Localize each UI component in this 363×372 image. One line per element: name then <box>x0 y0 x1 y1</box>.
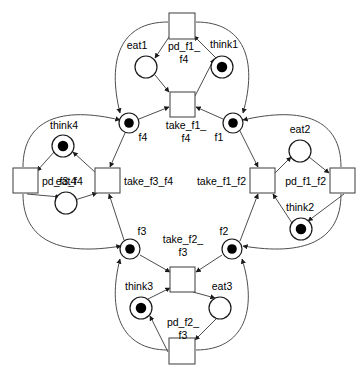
transition-label-take_f1_f2: take_f1_f2 <box>197 175 246 187</box>
arc-f1-to-takef1f2 <box>240 131 258 167</box>
transition-label2-take_f2_f3: f3 <box>179 246 188 258</box>
arc-f4-to-takef3f4 <box>110 133 125 167</box>
arc-f2-to-takef1f2 <box>240 194 258 241</box>
labels-layer: pd_f1_f4take_f1_f4pd_f1_f2take_f1_f2pd_f… <box>42 38 326 341</box>
token-f3 <box>125 244 135 254</box>
arc-takef3f4-to-think4 <box>73 152 96 173</box>
transition-label2-pd_f1_f4: f4 <box>180 53 189 65</box>
arc-f3-to-takef3f4 <box>109 194 124 240</box>
arc-pdf3f4-to-eat4 <box>27 194 60 197</box>
place-label-f3: f3 <box>138 225 147 237</box>
token-think1 <box>217 62 228 73</box>
token-f1 <box>228 118 238 128</box>
arc-f3-to-takef2f3 <box>140 255 170 272</box>
transition-label-pd_f2_f3: pd_f2_ <box>167 316 199 328</box>
arc-takef2f3-to-eat3 <box>193 292 215 298</box>
transition-label2-pd_f2_f3: f3 <box>179 329 188 341</box>
transition-pd_f2_f3[interactable] <box>169 338 195 364</box>
transition-label2-take_f1_f4: f4 <box>182 132 191 144</box>
transition-take_f2_f3[interactable] <box>170 267 195 292</box>
place-label-eat2: eat2 <box>290 123 311 135</box>
arcs-layer <box>23 22 344 352</box>
token-think2 <box>296 224 307 235</box>
place-eat3[interactable] <box>209 297 231 319</box>
place-label-eat4: eat4 <box>56 175 77 187</box>
transition-pd_f3_f4[interactable] <box>13 168 38 193</box>
place-eat2[interactable] <box>289 140 311 162</box>
token-think4 <box>58 141 69 152</box>
transition-pd_f1_f4[interactable] <box>169 13 195 39</box>
transition-label-take_f2_f3: take_f2_ <box>163 233 203 245</box>
arc-eat2-to-pdf1f2 <box>309 157 329 173</box>
transition-label-pd_f1_f4: pd_f1_ <box>168 40 200 52</box>
place-eat4[interactable] <box>55 192 77 214</box>
arc-think4-to-pdf3f4 <box>37 152 54 171</box>
token-think3 <box>136 303 147 314</box>
place-label-f4: f4 <box>139 131 148 143</box>
arc-f2-to-takef2f3 <box>196 255 222 272</box>
place-label-eat1: eat1 <box>127 39 148 51</box>
transition-label-take_f3_f4: take_f3_f4 <box>124 175 173 187</box>
transition-pd_f1_f2[interactable] <box>330 168 355 193</box>
transition-take_f1_f2[interactable] <box>250 168 275 193</box>
arc-eat4-to-takef3f4 <box>75 193 97 200</box>
place-label-f2: f2 <box>220 225 229 237</box>
transition-take_f1_f4[interactable] <box>170 92 195 117</box>
transition-label-take_f1_f4: take_f1_ <box>166 119 206 131</box>
transition-take_f3_f4[interactable] <box>95 168 120 193</box>
place-label-think3: think3 <box>125 280 153 292</box>
arc-pdf2f3-to-think3 <box>150 316 168 352</box>
place-eat1[interactable] <box>135 56 157 78</box>
place-label-think1: think1 <box>210 38 238 50</box>
transitions-layer <box>13 13 355 364</box>
transition-label-pd_f1_f2: pd_f1_f2 <box>285 175 326 187</box>
arc-f4-to-takef1f4 <box>139 107 169 119</box>
arc-eat1-to-takef1f4 <box>155 75 169 92</box>
place-label-think2: think2 <box>286 201 314 213</box>
petri-net-canvas: pd_f1_f4take_f1_f4pd_f1_f2take_f1_f2pd_f… <box>0 0 363 372</box>
arc-takef1f2-to-eat2 <box>275 157 291 173</box>
token-f4 <box>124 118 134 128</box>
place-label-f1: f1 <box>215 131 224 143</box>
token-f2 <box>227 244 237 254</box>
place-label-eat3: eat3 <box>212 280 233 292</box>
arc-f1-to-takef1f4 <box>196 107 223 119</box>
place-label-think4: think4 <box>50 119 78 131</box>
